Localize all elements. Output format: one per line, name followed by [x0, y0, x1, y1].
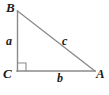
vertex-label-c: C: [3, 67, 12, 80]
side-label-b: b: [57, 72, 63, 84]
side-c-line: [18, 11, 96, 71]
right-triangle-diagram: B C A a b c: [0, 0, 109, 95]
triangle-graphic: [0, 0, 109, 95]
side-label-a: a: [6, 35, 12, 47]
right-angle-marker-icon: [18, 63, 26, 71]
vertex-label-b: B: [6, 1, 15, 14]
vertex-label-a: A: [96, 67, 105, 80]
side-label-c: c: [62, 35, 67, 47]
